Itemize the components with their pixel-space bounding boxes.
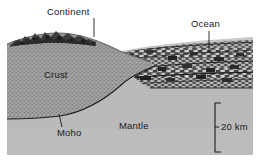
label-ocean: Ocean (191, 19, 220, 29)
label-crust: Crust (44, 70, 68, 80)
label-moho: Moho (57, 128, 82, 138)
label-scale-bar: 20 km (221, 122, 248, 132)
label-mantle: Mantle (119, 121, 149, 131)
cross-section-svg (0, 0, 259, 165)
label-continent: Continent (47, 7, 89, 17)
cross-section-figure: Continent Ocean Crust Moho Mantle 20 km (0, 0, 259, 165)
